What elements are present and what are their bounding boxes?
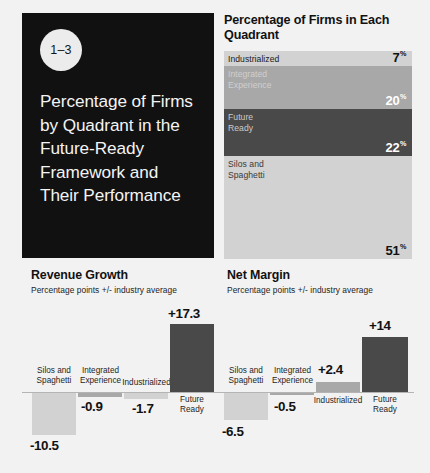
bar-value-label-industrialized: -1.7	[132, 401, 153, 416]
bar-silos-and-spaghetti	[224, 393, 268, 420]
bar-value-label-future-ready: +14	[369, 318, 391, 333]
figure-number-badge: 1–3	[40, 29, 82, 71]
quadrant-stacked-bar-chart: Industrialized 7% Integrated Experience …	[224, 51, 412, 259]
revenue-growth-plot: Silos and Spaghetti -10.5 Integrated Exp…	[22, 300, 218, 473]
chart-title: Net Margin	[227, 268, 414, 282]
bar-category-label-integrated: Integrated Experience	[77, 366, 124, 387]
stack-segment-label: Silos and Spaghetti	[228, 159, 406, 181]
quadrant-panel: Percentage of Firms in Each Quadrant Ind…	[224, 13, 412, 259]
bar-category-label-silos: Silos and Spaghetti	[224, 366, 268, 387]
stack-segment-value: 20%	[386, 93, 406, 108]
bar-value-label-integrated: -0.5	[274, 399, 295, 414]
stack-segment-value: 22%	[386, 140, 406, 155]
stack-segment-value: 7%	[392, 51, 406, 65]
net-margin-plot: Silos and Spaghetti -6.5 Integrated Expe…	[218, 300, 414, 473]
bar-category-label-silos: Silos and Spaghetti	[32, 366, 76, 387]
stack-segment-future-ready: Future Ready 22%	[224, 109, 412, 156]
bar-category-label-future-ready: Future Ready	[362, 395, 408, 416]
top-section: 1–3 Percentage of Firms by Quadrant in t…	[0, 0, 430, 262]
bar-value-label-industrialized: +2.4	[318, 362, 343, 377]
bar-industrialized	[124, 393, 168, 399]
chart-subtitle: Percentage points +/- industry average	[31, 285, 218, 295]
bar-industrialized	[316, 382, 360, 392]
stack-segment-silos-and-spaghetti: Silos and Spaghetti 51%	[224, 156, 412, 259]
revenue-growth-chart: Revenue Growth Percentage points +/- ind…	[22, 268, 218, 473]
stack-segment-label: Industrialized	[228, 54, 406, 65]
bar-value-label-future-ready: +17.3	[168, 306, 200, 321]
bottom-charts-section: Revenue Growth Percentage points +/- ind…	[0, 268, 430, 473]
bar-silos-and-spaghetti	[32, 393, 76, 435]
bar-integrated-experience	[270, 393, 314, 395]
bar-future-ready	[362, 337, 408, 392]
bar-value-label-silos: -10.5	[30, 438, 59, 453]
chart-subtitle: Percentage points +/- industry average	[227, 285, 414, 295]
net-margin-chart: Net Margin Percentage points +/- industr…	[218, 268, 414, 473]
bar-category-label-future-ready: Future Ready	[170, 395, 214, 416]
stack-segment-industrialized: Industrialized 7%	[224, 51, 412, 66]
stack-segment-integrated-experience: Integrated Experience 20%	[224, 66, 412, 109]
stack-segment-label: Integrated Experience	[228, 69, 406, 91]
hero-panel: 1–3 Percentage of Firms by Quadrant in t…	[22, 13, 214, 258]
bar-value-label-silos: -6.5	[222, 424, 243, 439]
bar-category-label-integrated: Integrated Experience	[269, 366, 316, 387]
bar-category-label-industrialized: Industrialized	[121, 378, 172, 388]
stack-segment-value: 51%	[386, 243, 406, 258]
bar-future-ready	[170, 324, 214, 392]
bar-category-label-industrialized: Industrialized	[312, 396, 364, 406]
hero-title: Percentage of Firms by Quadrant in the F…	[40, 90, 196, 208]
quadrant-panel-title: Percentage of Firms in Each Quadrant	[224, 13, 412, 44]
bar-value-label-integrated: -0.9	[81, 399, 102, 414]
chart-title: Revenue Growth	[31, 268, 218, 282]
stack-segment-label: Future Ready	[228, 112, 406, 134]
bar-integrated-experience	[78, 393, 122, 397]
